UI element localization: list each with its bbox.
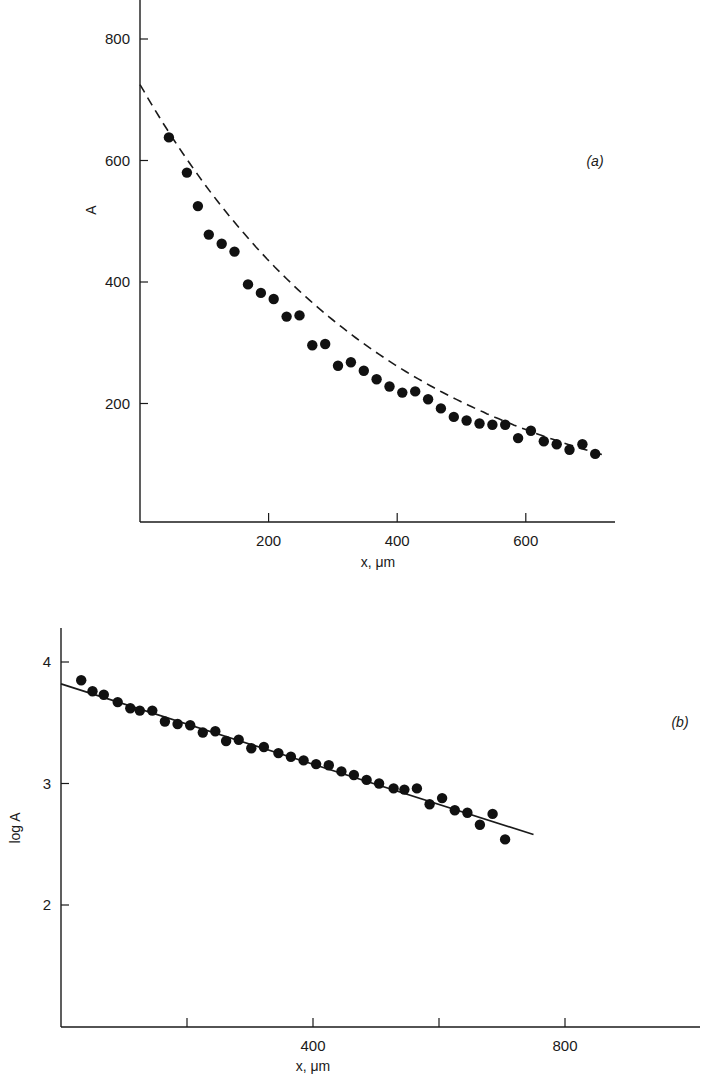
data-point — [397, 387, 407, 397]
y-tick-label: 800 — [105, 30, 130, 47]
data-point — [462, 808, 472, 818]
data-point — [384, 381, 394, 391]
data-point — [76, 675, 86, 685]
y-tick-label: 2 — [43, 896, 51, 913]
data-point — [388, 783, 398, 793]
chart-panel-a: 200400600800200400600x, μmA(a) — [83, 0, 615, 570]
panel-label: (a) — [586, 153, 603, 169]
y-axis-title: A — [83, 205, 99, 215]
data-point — [269, 294, 279, 304]
data-point — [311, 759, 321, 769]
data-point — [182, 167, 192, 177]
data-point — [87, 686, 97, 696]
data-point — [286, 752, 296, 762]
x-tick-label: 400 — [300, 1037, 325, 1054]
y-axis-title: log A — [7, 812, 23, 844]
data-point — [410, 386, 420, 396]
data-point — [125, 703, 135, 713]
data-point — [185, 720, 195, 730]
data-point — [487, 420, 497, 430]
data-point — [346, 357, 356, 367]
data-point — [500, 834, 510, 844]
data-point — [500, 420, 510, 430]
data-point — [229, 246, 239, 256]
data-point — [423, 394, 433, 404]
data-point — [198, 727, 208, 737]
data-point — [513, 433, 523, 443]
y-tick-label: 3 — [43, 775, 51, 792]
data-point — [424, 799, 434, 809]
y-tick-label: 400 — [105, 273, 130, 290]
x-tick-label: 200 — [256, 532, 281, 549]
fit-curve-dashed — [140, 85, 603, 455]
data-point — [243, 279, 253, 289]
data-point — [320, 339, 330, 349]
data-point — [113, 697, 123, 707]
data-point — [437, 793, 447, 803]
data-point — [526, 426, 536, 436]
data-point — [246, 743, 256, 753]
data-point — [374, 778, 384, 788]
data-point — [259, 742, 269, 752]
data-point — [552, 439, 562, 449]
x-axis-title: x, μm — [361, 554, 396, 570]
data-point — [210, 726, 220, 736]
data-point — [399, 784, 409, 794]
data-point — [333, 361, 343, 371]
data-point — [172, 719, 182, 729]
data-point — [336, 766, 346, 776]
data-point — [474, 418, 484, 428]
chart-canvas: 200400600800200400600x, μmA(a) 234400800… — [0, 0, 712, 1086]
data-point — [577, 439, 587, 449]
data-point — [361, 775, 371, 785]
y-tick-label: 600 — [105, 152, 130, 169]
data-point — [99, 690, 109, 700]
data-point — [564, 445, 574, 455]
data-point — [221, 736, 231, 746]
data-point — [475, 820, 485, 830]
data-point — [324, 760, 334, 770]
data-point — [256, 288, 266, 298]
data-point — [281, 311, 291, 321]
data-point — [273, 748, 283, 758]
data-point — [539, 436, 549, 446]
data-point — [436, 403, 446, 413]
data-point — [359, 366, 369, 376]
data-point — [135, 705, 145, 715]
x-axis-title: x, μm — [296, 1058, 331, 1074]
data-point — [164, 132, 174, 142]
data-point — [461, 415, 471, 425]
data-point — [487, 809, 497, 819]
data-point — [449, 412, 459, 422]
data-point — [298, 755, 308, 765]
data-point — [371, 374, 381, 384]
panel-label: (b) — [671, 714, 688, 730]
data-point — [204, 229, 214, 239]
data-point — [349, 770, 359, 780]
y-tick-label: 4 — [43, 653, 51, 670]
data-point — [234, 735, 244, 745]
data-point — [412, 783, 422, 793]
data-point — [160, 716, 170, 726]
x-tick-label: 600 — [513, 532, 538, 549]
y-tick-label: 200 — [105, 395, 130, 412]
data-point — [217, 239, 227, 249]
data-point — [147, 705, 157, 715]
x-tick-label: 800 — [552, 1037, 577, 1054]
data-point — [193, 201, 203, 211]
data-point — [307, 340, 317, 350]
data-point — [450, 805, 460, 815]
data-point — [294, 310, 304, 320]
x-tick-label: 400 — [385, 532, 410, 549]
chart-panel-b: 234400800x, μmlog A(b) — [7, 628, 700, 1074]
data-point — [590, 449, 600, 459]
